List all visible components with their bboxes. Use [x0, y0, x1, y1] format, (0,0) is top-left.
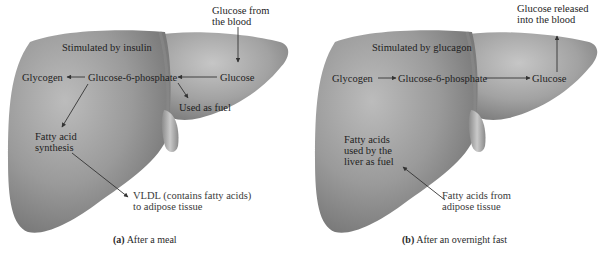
- liver-illustration: [305, 0, 599, 254]
- caption-text: After a meal: [127, 234, 177, 245]
- glucose-6-phosphate-label: Glucose-6-phosphate: [88, 72, 177, 83]
- glycogen-label: Glycogen: [22, 72, 63, 83]
- glycogen-label: Glycogen: [332, 73, 373, 84]
- caption-b: (b) After an overnight fast: [402, 234, 507, 245]
- panel-after-fast: Glucose released into the blood Stimulat…: [305, 0, 599, 254]
- liver-illustration: [0, 0, 300, 254]
- glucose-6-phosphate-label: Glucose-6-phosphate: [398, 73, 487, 84]
- fatty-acid-synthesis-label: Fatty acid synthesis: [35, 131, 77, 153]
- vldl-label: VLDL (contains fatty acids) to adipose t…: [133, 190, 251, 212]
- glucose-label: Glucose: [220, 72, 254, 83]
- glucose-label: Glucose: [532, 73, 566, 84]
- fatty-acids-used-label: Fatty acids used by the liver as fuel: [344, 134, 394, 167]
- panel-after-meal: Glucose from the blood Stimulated by ins…: [0, 0, 300, 254]
- used-as-fuel-label: Used as fuel: [179, 102, 231, 113]
- caption-letter: (b): [402, 234, 414, 245]
- caption-a: (a) After a meal: [113, 234, 177, 245]
- glucose-released-label: Glucose released into the blood: [517, 3, 588, 25]
- glucose-from-blood-label: Glucose from the blood: [212, 5, 269, 27]
- fatty-acids-from-adipose-label: Fatty acids from adipose tissue: [442, 190, 511, 212]
- caption-text: After an overnight fast: [416, 234, 507, 245]
- caption-letter: (a): [113, 234, 125, 245]
- stimulus-label: Stimulated by glucagon: [372, 42, 472, 53]
- stimulus-label: Stimulated by insulin: [62, 42, 152, 53]
